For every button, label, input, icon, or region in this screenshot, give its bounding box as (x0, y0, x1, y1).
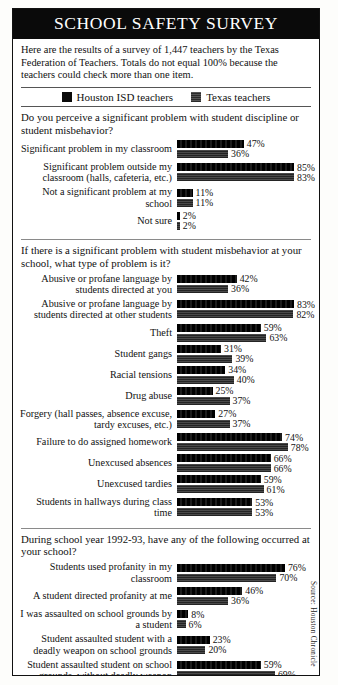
bar-value-texas: 66% (271, 463, 292, 474)
chart-row-bars: 66%66% (177, 454, 315, 472)
bar-group-houston-isd: 59% (177, 661, 315, 669)
bar-group-texas: 70% (177, 574, 315, 582)
bar-texas (177, 173, 294, 181)
bar-houston-isd (177, 636, 210, 644)
bar-group-texas: 39% (177, 355, 315, 363)
chart-row-label: Forgery (hall passes, absence excuse, ta… (17, 408, 177, 430)
bar-texas (177, 620, 186, 628)
bar-value-texas: 69% (275, 669, 296, 676)
chart-row-bars: 59%61% (177, 475, 315, 493)
bar-group-texas: 82% (177, 310, 315, 318)
bar-houston-isd (177, 587, 242, 595)
chart-row: Unexcused tardies59%61% (17, 475, 315, 493)
bar-group-houston-isd: 76% (177, 564, 315, 572)
bar-group-texas: 20% (177, 646, 315, 654)
bar-texas (177, 199, 193, 207)
chart-row: Not sure2%2% (17, 212, 315, 230)
chart-row-label: Failure to do assigned homework (17, 436, 177, 447)
bar-texas (177, 464, 271, 472)
bar-group-houston-isd: 59% (177, 324, 315, 332)
bar-texas (177, 150, 228, 158)
bar-value-texas: 70% (276, 572, 297, 583)
bar-group-texas: 66% (177, 464, 315, 472)
bar-group-texas: 36% (177, 285, 315, 293)
bar-group-houston-isd: 31% (177, 345, 315, 353)
bar-houston-isd (177, 387, 213, 395)
chart-row-bars: 47%36% (177, 140, 315, 158)
bar-group-houston-isd: 8% (177, 610, 315, 618)
chart-row-label: Significant problem outside my classroom… (17, 161, 177, 183)
chart-row-label: Students in hallways during class time (17, 496, 177, 518)
chart-row-bars: 31%39% (177, 345, 315, 363)
legend-label-texas: Texas teachers (206, 91, 270, 103)
bar-value-texas: 82% (293, 309, 314, 320)
section-chart: Abusive or profane language by students … (13, 272, 319, 526)
infographic-page: SCHOOL SAFETY SURVEY Here are the result… (0, 0, 338, 685)
chart-row: Theft59%63% (17, 324, 315, 342)
bar-group-texas: 11% (177, 199, 315, 207)
bar-houston-isd (177, 661, 261, 669)
chart-row-bars: 74%78% (177, 433, 315, 451)
chart-row-bars: 2%2% (177, 212, 315, 230)
legend-swatch-houston-isd (62, 92, 72, 102)
chart-row: A student directed profanity at me46%36% (17, 587, 315, 605)
chart-row-bars: 85%83% (177, 163, 315, 181)
bar-texas (177, 646, 205, 654)
chart-row-label: Unexcused absences (17, 457, 177, 468)
bar-group-houston-isd: 2% (177, 212, 315, 220)
bar-houston-isd (177, 475, 261, 483)
bar-texas (177, 310, 293, 318)
infographic-frame: SCHOOL SAFETY SURVEY Here are the result… (12, 8, 320, 676)
chart-row: Abusive or profane language by students … (17, 273, 315, 295)
chart-row: Failure to do assigned homework74%78% (17, 433, 315, 451)
bar-texas (177, 508, 252, 516)
section-question: During school year 1992-93, have any of … (13, 529, 319, 561)
chart-row: Forgery (hall passes, absence excuse, ta… (17, 408, 315, 430)
bar-texas (177, 397, 230, 405)
chart-row-bars: 59%63% (177, 324, 315, 342)
bar-group-houston-isd: 46% (177, 587, 315, 595)
bar-texas (177, 376, 234, 384)
legend-item-texas: Texas teachers (191, 91, 270, 103)
chart-row: Student gangs31%39% (17, 345, 315, 363)
bar-group-texas: 37% (177, 397, 315, 405)
legend-label-houston-isd: Houston ISD teachers (77, 91, 174, 103)
chart-row-label: I was assaulted on school grounds by a s… (17, 608, 177, 630)
bar-group-texas: 36% (177, 150, 315, 158)
bar-houston-isd (177, 564, 285, 572)
chart-row-label: Abusive or profane language by students … (17, 298, 177, 320)
chart-row-label: Student assaulted student on school grou… (17, 659, 177, 676)
bar-group-texas: 40% (177, 376, 315, 384)
chart-legend: Houston ISD teachers Texas teachers (13, 88, 319, 106)
legend-item-houston-isd: Houston ISD teachers (62, 91, 174, 103)
survey-section: If there is a significant problem with s… (13, 240, 319, 528)
chart-row: I was assaulted on school grounds by a s… (17, 608, 315, 630)
bar-group-houston-isd: 27% (177, 410, 315, 418)
bar-value-texas: 40% (234, 374, 255, 385)
bar-value-texas: 20% (205, 644, 226, 655)
chart-row-bars: 46%36% (177, 587, 315, 605)
chart-row: Student assaulted student with a deadly … (17, 633, 315, 655)
chart-row-label: Significant problem in my classroom (17, 143, 177, 154)
chart-row: Significant problem in my classroom47%36… (17, 140, 315, 158)
chart-row-bars: 27%37% (177, 410, 315, 428)
chart-row-label: Unexcused tardies (17, 478, 177, 489)
bar-group-texas: 83% (177, 173, 315, 181)
chart-row-label: Student gangs (17, 348, 177, 359)
chart-row-bars: 83%82% (177, 300, 315, 318)
chart-row: Unexcused absences66%66% (17, 454, 315, 472)
chart-row-label: Abusive or profane language by students … (17, 273, 177, 295)
bar-texas (177, 420, 230, 428)
bar-houston-isd (177, 345, 221, 353)
bar-houston-isd (177, 189, 193, 197)
survey-section: During school year 1992-93, have any of … (13, 529, 319, 677)
chart-row-label: Students used profanity in my classroom (17, 561, 177, 583)
chart-row-bars: 23%20% (177, 636, 315, 654)
page-title: SCHOOL SAFETY SURVEY (13, 9, 319, 39)
chart-row: Racial tensions34%40% (17, 366, 315, 384)
bar-houston-isd (177, 140, 244, 148)
bar-value-texas: 39% (232, 353, 253, 364)
survey-section: Do you perceive a significant problem wi… (13, 107, 319, 239)
legend-swatch-texas (191, 92, 201, 102)
bar-texas (177, 285, 228, 293)
